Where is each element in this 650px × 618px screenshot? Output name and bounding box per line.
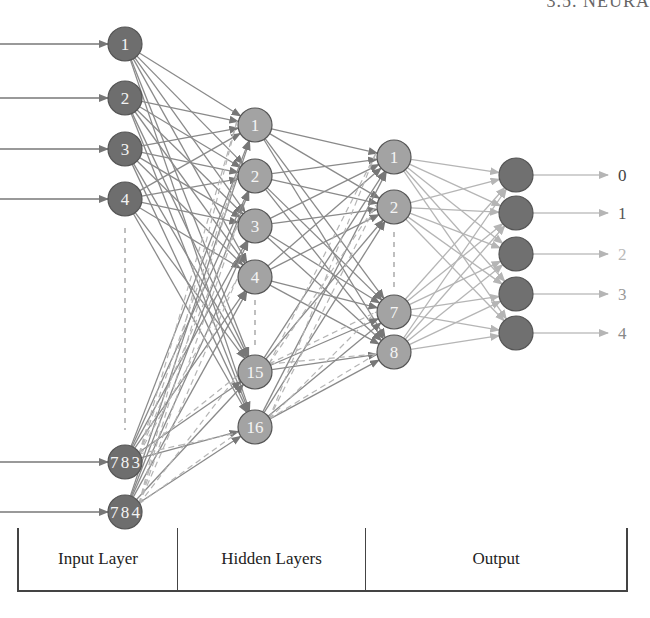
implied-edge xyxy=(269,153,376,364)
connection-edge xyxy=(266,220,383,359)
input-neuron: 4 xyxy=(108,182,142,216)
neuron-label: 7 xyxy=(390,303,399,322)
connection-edge xyxy=(264,171,385,357)
output-class-label: 1 xyxy=(618,204,627,223)
hidden2-neuron: 7 xyxy=(377,295,411,329)
neuron-nodes: 1234783784123415161278 xyxy=(108,27,533,529)
implied-edge xyxy=(269,312,376,419)
connection-edge xyxy=(272,354,377,369)
neuron-label: 2 xyxy=(121,89,130,108)
output-class-label: 3 xyxy=(618,285,627,304)
output-neuron xyxy=(499,277,533,311)
input-neuron: 783 xyxy=(108,445,142,479)
output-class-label: 2 xyxy=(618,245,627,264)
hidden1-neuron: 16 xyxy=(238,410,272,444)
connection-edges xyxy=(130,53,506,504)
hidden1-neuron: 2 xyxy=(238,159,272,193)
input-neuron: 3 xyxy=(108,132,142,166)
neuron-label: 784 xyxy=(110,503,141,522)
hidden2-neuron: 8 xyxy=(377,335,411,369)
neuron-label: 783 xyxy=(110,453,140,472)
connection-edge xyxy=(270,215,379,270)
connection-edge xyxy=(272,129,378,153)
output-neuron xyxy=(499,158,533,192)
connection-edge xyxy=(265,139,384,299)
hidden1-neuron: 4 xyxy=(238,260,272,294)
legend-hidden-layers: Hidden Layers xyxy=(177,528,365,590)
connection-edge xyxy=(272,159,377,173)
neuron-label: 3 xyxy=(121,140,130,159)
neuron-label: 1 xyxy=(121,35,130,54)
input-neuron: 1 xyxy=(108,27,142,61)
output-neuron xyxy=(499,316,533,350)
legend-input-layer: Input Layer xyxy=(19,528,177,590)
implied-edge xyxy=(139,226,237,504)
hidden1-neuron: 1 xyxy=(238,108,272,142)
connection-edge xyxy=(263,172,386,412)
neuron-label: 2 xyxy=(251,167,260,186)
neuron-label: 1 xyxy=(390,148,399,167)
neuron-label: 1 xyxy=(251,116,260,135)
legend-output: Output xyxy=(365,528,626,590)
input-arrows xyxy=(0,44,108,512)
output-class-labels: 01234 xyxy=(618,166,627,343)
output-neuron xyxy=(499,196,533,230)
connection-edge xyxy=(407,265,502,342)
input-neuron: 784 xyxy=(108,495,142,529)
implied-edge xyxy=(139,174,237,504)
connection-edge xyxy=(142,101,239,121)
input-neuron: 2 xyxy=(108,81,142,115)
output-class-label: 0 xyxy=(618,166,627,185)
neuron-label: 2 xyxy=(390,198,399,217)
neuron-label: 3 xyxy=(251,217,260,236)
output-neuron xyxy=(499,237,533,271)
implied-edge xyxy=(269,354,376,419)
neuron-label: 16 xyxy=(247,418,264,437)
output-arrows xyxy=(533,175,608,333)
output-class-label: 4 xyxy=(618,324,627,343)
connection-edge xyxy=(404,189,507,338)
hidden1-neuron: 3 xyxy=(238,209,272,243)
neuron-label: 4 xyxy=(251,268,260,287)
neural-network-diagram: 1234783784123415161278 01234 xyxy=(0,0,650,618)
neuron-label: 8 xyxy=(390,343,399,362)
hidden1-neuron: 15 xyxy=(238,355,272,389)
connection-edge xyxy=(408,217,502,284)
neuron-label: 4 xyxy=(121,190,130,209)
layer-legend: Input Layer Hidden Layers Output xyxy=(17,528,628,592)
hidden2-neuron: 2 xyxy=(377,190,411,224)
neuron-label: 15 xyxy=(247,363,264,382)
connection-edge xyxy=(137,56,243,164)
connection-edge xyxy=(270,165,379,219)
implied-edge xyxy=(139,121,237,504)
hidden2-neuron: 1 xyxy=(377,140,411,174)
